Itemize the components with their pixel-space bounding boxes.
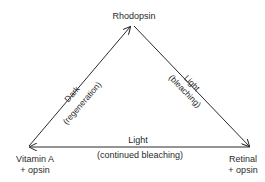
node-vitamin-a-sublabel: + opsin xyxy=(20,165,49,175)
edge-bottom-process: (continued bleaching) xyxy=(97,150,183,160)
node-retinal: Retinal xyxy=(229,154,257,164)
edge-bottom-condition: Light xyxy=(128,135,148,145)
node-retinal-sublabel: + opsin xyxy=(228,165,257,175)
node-rhodopsin: Rhodopsin xyxy=(112,11,155,21)
node-vitamin-a: Vitamin A xyxy=(16,154,54,164)
